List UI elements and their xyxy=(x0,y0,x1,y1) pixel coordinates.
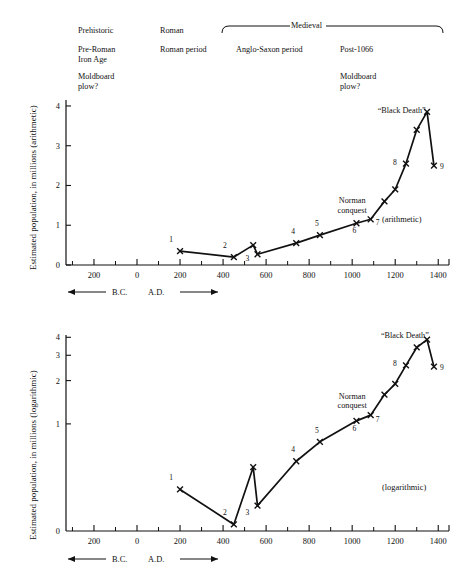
logarithmic-x-tick-label: 200 xyxy=(174,537,187,546)
chart-arithmetic-scale-note: (arithmetic) xyxy=(382,215,422,224)
logarithmic-y-tick-label: 4 xyxy=(56,333,61,342)
logarithmic-y-tick-label: 3 xyxy=(56,351,60,360)
logarithmic-point-label: 5 xyxy=(315,426,319,435)
logarithmic-point-label: 7 xyxy=(376,415,380,424)
logarithmic-point-label: 1 xyxy=(169,473,173,482)
chart-arithmetic: Estimated population, in millions (arith… xyxy=(0,0,473,305)
logarithmic-y-tick-label: 2 xyxy=(56,377,60,386)
logarithmic-data-point xyxy=(177,487,183,493)
chart-logarithmic-scale-note: (logarithmic) xyxy=(382,483,426,492)
logarithmic-x-tick-label: 800 xyxy=(303,537,316,546)
arithmetic-x-tick-label: 600 xyxy=(260,271,273,280)
logarithmic-data-point xyxy=(414,345,420,351)
chart-logarithmic: Estimated population, in millions (logar… xyxy=(0,305,473,572)
arithmetic-point-label: 1 xyxy=(169,235,173,244)
arithmetic-data-point xyxy=(250,242,256,248)
svg-text:A.D.: A.D. xyxy=(148,288,164,297)
arithmetic-point-label: 9 xyxy=(440,162,444,171)
bc-ad-arrows-icon: B.C. A.D. xyxy=(60,553,240,566)
logarithmic-data-point xyxy=(392,381,398,387)
arithmetic-point-label: 3 xyxy=(246,254,250,263)
figure-root: PrehistoricRomanPre-Roman Iron AgeRoman … xyxy=(0,0,473,572)
bc-ad-arrows-icon: B.C. A.D. xyxy=(60,286,240,299)
logarithmic-data-point xyxy=(403,363,409,369)
arithmetic-point-label: 6 xyxy=(353,226,357,235)
arithmetic-point-label: 4 xyxy=(291,227,295,236)
logarithmic-point-label: 8 xyxy=(393,359,397,368)
logarithmic-x-tick-label: 600 xyxy=(260,537,273,546)
logarithmic-point-label: 4 xyxy=(291,445,295,454)
arithmetic-annotation: “Black Death” xyxy=(378,106,426,115)
arithmetic-y-tick-label: 4 xyxy=(56,102,61,111)
logarithmic-point-label: 9 xyxy=(440,363,444,372)
arithmetic-x-tick-label: 1200 xyxy=(387,271,404,280)
chart-arithmetic-plot: 0123420002004006008001000120014001234567… xyxy=(0,0,473,305)
arithmetic-x-tick-label: 800 xyxy=(303,271,316,280)
logarithmic-x-tick-label: 0 xyxy=(135,537,139,546)
logarithmic-x-tick-label: 1400 xyxy=(430,537,447,546)
logarithmic-point-label: 2 xyxy=(223,508,227,517)
arithmetic-x-tick-label: 200 xyxy=(88,271,101,280)
logarithmic-data-point xyxy=(293,458,299,464)
svg-text:B.C.: B.C. xyxy=(112,288,127,297)
logarithmic-annotation: Normanconquest xyxy=(338,392,368,411)
logarithmic-data-point xyxy=(317,439,323,445)
arithmetic-y-tick-label: 3 xyxy=(56,142,60,151)
arithmetic-x-tick-label: 0 xyxy=(135,271,139,280)
svg-text:B.C.: B.C. xyxy=(112,555,127,564)
arithmetic-x-tick-label: 400 xyxy=(217,271,230,280)
logarithmic-point-label: 6 xyxy=(353,424,357,433)
logarithmic-data-point xyxy=(382,392,388,398)
arithmetic-point-label: 8 xyxy=(393,158,397,167)
svg-text:A.D.: A.D. xyxy=(148,555,164,564)
chart-logarithmic-bcad: B.C. A.D. xyxy=(60,553,240,566)
logarithmic-x-tick-label: 1200 xyxy=(387,537,404,546)
arithmetic-x-tick-label: 1400 xyxy=(430,271,447,280)
logarithmic-x-tick-label: 1000 xyxy=(344,537,361,546)
chart-arithmetic-bcad: B.C. A.D. xyxy=(60,286,240,299)
arithmetic-point-label: 5 xyxy=(315,219,319,228)
logarithmic-annotation: “Black Death” xyxy=(381,331,429,340)
arithmetic-y-tick-label: 1 xyxy=(56,221,60,230)
arithmetic-data-point xyxy=(382,198,388,204)
logarithmic-x-tick-label: 200 xyxy=(88,537,101,546)
logarithmic-y-tick-label: 1 xyxy=(56,420,60,429)
arithmetic-y-tick-label: 2 xyxy=(56,181,60,190)
arithmetic-point-label: 7 xyxy=(376,218,380,227)
chart-logarithmic-plot: 1234020002004006008001000120014001234567… xyxy=(0,305,473,572)
arithmetic-annotation: Normanconquest xyxy=(338,196,368,215)
arithmetic-series-line xyxy=(180,112,434,257)
arithmetic-x-tick-label: 1000 xyxy=(344,271,361,280)
arithmetic-y-tick-label: 0 xyxy=(56,261,60,270)
logarithmic-point-label: 3 xyxy=(246,508,250,517)
logarithmic-x-tick-label: 400 xyxy=(217,537,230,546)
arithmetic-x-tick-label: 200 xyxy=(174,271,187,280)
logarithmic-y-tick-label-zero: 0 xyxy=(56,527,60,536)
arithmetic-point-label: 2 xyxy=(223,241,227,250)
